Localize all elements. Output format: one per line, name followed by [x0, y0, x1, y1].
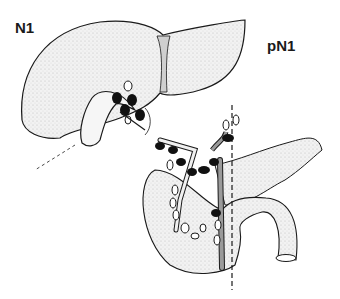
artery: [212, 132, 226, 150]
label-pn1: pN1: [267, 37, 295, 54]
lymph-node-positive: [135, 109, 145, 121]
anatomical-diagram: N1 pN1: [0, 0, 340, 299]
duodenum-opening: [276, 255, 296, 262]
label-n1: N1: [15, 19, 34, 36]
lymph-node-positive: [127, 94, 137, 106]
lymph-node-positive: [112, 92, 122, 104]
dashed-line-left: [35, 145, 75, 170]
pancreas-tail: [215, 138, 322, 205]
lymph-node-open: [124, 81, 132, 91]
lymph-node-positive: [120, 104, 130, 116]
liver-outline: [22, 20, 245, 138]
